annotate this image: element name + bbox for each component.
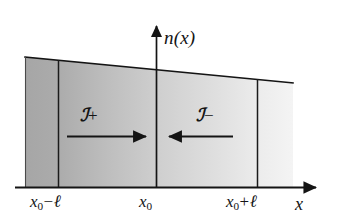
x-axis-label: x [295,195,303,213]
y-axis-label: n(x) [164,28,195,47]
density-shaded-region [25,57,293,187]
tick-left-ell: ℓ [53,191,61,211]
flux-plus-symbol: ℐ [80,104,88,125]
tick-left-operator: − [43,192,53,211]
flux-label-minus: ℐ− [196,106,214,124]
flux-minus-symbol: ℐ [196,104,204,125]
tick-center-variable: x [139,192,147,211]
flux-label-plus: ℐ+ [80,106,98,124]
tick-right-variable: x [226,192,234,211]
tick-right-ell: ℓ [249,191,257,211]
tick-center-subscript: 0 [147,200,153,212]
tick-label-x0-minus-l: x0−ℓ [30,193,61,212]
tick-label-x0: x0 [139,193,152,212]
tick-left-variable: x [30,192,38,211]
tick-right-operator: + [239,192,249,211]
flux-minus-sign: − [204,106,214,125]
flux-diagram-figure: n(x) x x0−ℓ x0 x0+ℓ ℐ+ ℐ− [0,0,347,221]
flux-plus-sign: + [88,106,98,125]
tick-label-x0-plus-l: x0+ℓ [226,193,257,212]
